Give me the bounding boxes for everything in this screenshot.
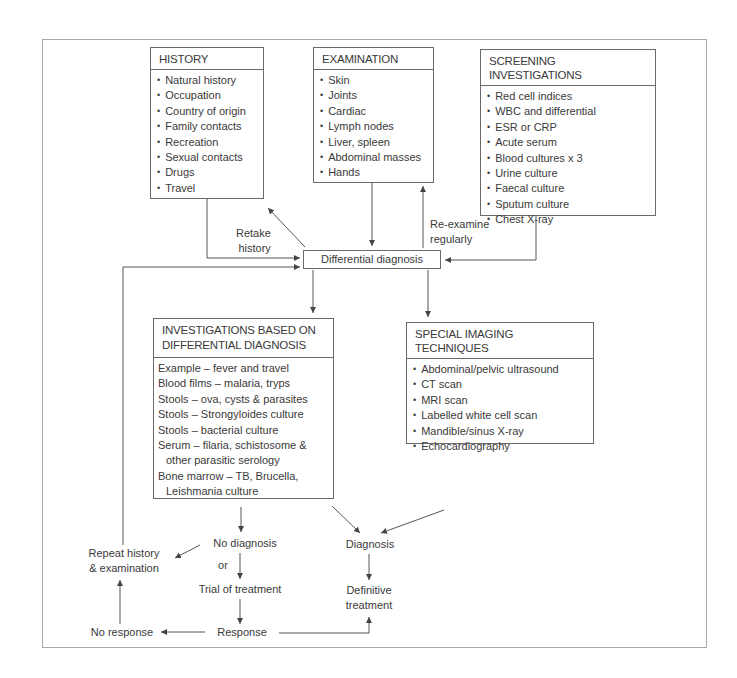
screening-box: SCREENING INVESTIGATIONS Red cell indice… [480, 49, 656, 216]
screening-item: ESR or CRP [487, 120, 651, 135]
arrow-imaging-to-dx [381, 510, 444, 533]
history-item: Natural history [157, 73, 259, 88]
examination-item: Cardiac [320, 104, 429, 119]
history-item: Sexual contacts [157, 150, 259, 165]
examination-title: EXAMINATION [314, 48, 433, 70]
history-item: Occupation [157, 88, 259, 103]
history-item: Recreation [157, 135, 259, 150]
imaging-item: Labelled white cell scan [413, 408, 589, 423]
retake-label-line2: history [236, 241, 271, 256]
history-list: Natural history Occupation Country of or… [151, 70, 263, 199]
examination-list: Skin Joints Cardiac Lymph nodes Liver, s… [314, 70, 433, 184]
investigations-title: INVESTIGATIONS BASED ON DIFFERENTIAL DIA… [154, 319, 333, 358]
imaging-list: Abdominal/pelvic ultrasound CT scan MRI … [407, 359, 593, 457]
imaging-item: MRI scan [413, 393, 589, 408]
retake-label-line1: Retake [236, 226, 271, 241]
investigations-title-line1: INVESTIGATIONS BASED ON [162, 323, 325, 338]
history-box: HISTORY Natural history Occupation Count… [150, 47, 264, 199]
screening-item: WBC and differential [487, 104, 651, 119]
screening-item: Red cell indices [487, 89, 651, 104]
investigations-box: INVESTIGATIONS BASED ON DIFFERENTIAL DIA… [153, 318, 334, 499]
reexamine-label-line2: regularly [430, 232, 489, 247]
investigation-item: Stools – bacterial culture [158, 423, 329, 438]
examination-item: Skin [320, 73, 429, 88]
screening-item: Faecal culture [487, 181, 651, 196]
definitive-line2: treatment [336, 598, 402, 613]
investigation-item: Stools – Strongyloides culture [158, 407, 329, 422]
history-title: HISTORY [151, 48, 263, 70]
examination-item: Liver, spleen [320, 135, 429, 150]
diagnosis-node: Diagnosis [342, 537, 398, 552]
investigation-item: Bone marrow – TB, Brucella, [158, 469, 329, 484]
arrow-investigations-to-dx [332, 506, 360, 533]
retake-history-label: Retake history [236, 226, 271, 256]
repeat-line1: Repeat history [78, 546, 170, 561]
reexamine-label: Re-examine regularly [430, 217, 489, 247]
investigations-list: Example – fever and travel Blood films –… [154, 358, 333, 503]
or-label: or [213, 558, 233, 573]
history-item: Country of origin [157, 104, 259, 119]
imaging-item: Mandible/sinus X-ray [413, 424, 589, 439]
reexamine-label-line1: Re-examine [430, 217, 489, 232]
differential-diagnosis-box: Differential diagnosis [303, 250, 441, 269]
screening-item: Blood cultures x 3 [487, 151, 651, 166]
examination-box: EXAMINATION Skin Joints Cardiac Lymph no… [313, 47, 434, 183]
history-item: Drugs [157, 165, 259, 180]
examination-item: Hands [320, 165, 429, 180]
investigation-item: Stools – ova, cysts & parasites [158, 392, 329, 407]
examination-item: Joints [320, 88, 429, 103]
repeat-history-node: Repeat history & examination [78, 546, 170, 576]
investigations-title-line2: DIFFERENTIAL DIAGNOSIS [162, 338, 325, 353]
arrow-nodx-to-repeat [175, 545, 200, 558]
history-item: Travel [157, 181, 259, 196]
investigation-item: Blood films – malaria, tryps [158, 376, 329, 391]
definitive-treatment-node: Definitive treatment [336, 583, 402, 613]
screening-title: SCREENING INVESTIGATIONS [481, 50, 655, 86]
response-node: Response [210, 625, 274, 640]
history-item: Family contacts [157, 119, 259, 134]
investigation-item: Serum – filaria, schistosome & [158, 438, 329, 453]
no-diagnosis-node: No diagnosis [205, 536, 285, 551]
definitive-line1: Definitive [336, 583, 402, 598]
screening-item: Urine culture [487, 166, 651, 181]
imaging-item: Echocardiography [413, 439, 589, 454]
screening-list: Red cell indices WBC and differential ES… [481, 86, 655, 231]
screening-item: Acute serum [487, 135, 651, 150]
examination-item: Abdominal masses [320, 150, 429, 165]
repeat-line2: & examination [78, 561, 170, 576]
arrow-retake-history [268, 208, 305, 247]
flowchart-canvas: HISTORY Natural history Occupation Count… [0, 0, 737, 678]
screening-item: Chest X-ray [487, 212, 651, 227]
examination-item: Lymph nodes [320, 119, 429, 134]
imaging-item: CT scan [413, 377, 589, 392]
imaging-box: SPECIAL IMAGING TECHNIQUES Abdominal/pel… [406, 322, 594, 444]
no-response-node: No response [86, 625, 158, 640]
imaging-title: SPECIAL IMAGING TECHNIQUES [407, 323, 593, 359]
investigation-item: Leishmania culture [158, 484, 329, 499]
trial-of-treatment-node: Trial of treatment [190, 582, 290, 597]
screening-item: Sputum culture [487, 197, 651, 212]
imaging-item: Abdominal/pelvic ultrasound [413, 362, 589, 377]
investigation-item: Example – fever and travel [158, 361, 329, 376]
arrow-response-to-definitive [279, 617, 369, 633]
investigation-item: other parasitic serology [158, 453, 329, 468]
